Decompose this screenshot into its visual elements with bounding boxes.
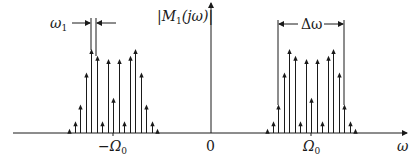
pos-omega0-label: Ω0 — [303, 139, 320, 156]
arrowhead-icon — [67, 129, 71, 134]
arrowhead-icon — [144, 104, 148, 109]
arrowhead-icon — [73, 121, 77, 126]
arrowhead-icon — [320, 121, 324, 126]
arrowhead-icon — [287, 49, 291, 54]
arrowhead-icon — [128, 56, 132, 61]
arrowhead-icon — [304, 59, 308, 64]
arrowhead-icon — [100, 121, 104, 126]
arrowhead-icon — [337, 73, 341, 78]
arrowhead-icon — [155, 129, 159, 134]
arrowhead-icon — [139, 73, 143, 78]
arrowhead-icon — [265, 129, 269, 134]
x-axis-label: ω — [397, 139, 408, 153]
y-axis-label: |M1(jω)| — [157, 9, 213, 26]
arrowhead-icon — [309, 98, 313, 103]
omega1-label: ω1 — [50, 16, 67, 33]
spectrum-diagram: |M1(jω)| ω1 Δω −Ω0 0 Ω0 ω — [0, 0, 417, 157]
arrowhead-icon — [348, 121, 352, 126]
bandwidth-label: Δω — [300, 17, 324, 31]
arrowhead-icon — [106, 59, 110, 64]
arrowhead-icon — [84, 73, 88, 78]
arrowhead-icon — [122, 121, 126, 126]
arrowhead-icon — [89, 49, 93, 54]
arrowhead-icon — [282, 73, 286, 78]
arrowhead-icon — [276, 104, 280, 109]
arrowhead-icon — [271, 121, 275, 126]
arrowhead-icon — [78, 104, 82, 109]
arrowhead-icon — [117, 59, 121, 64]
origin-label: 0 — [206, 139, 215, 153]
bandwidth-marker — [278, 20, 344, 105]
arrowhead-icon — [298, 121, 302, 126]
arrowhead-icon — [315, 59, 319, 64]
arrowhead-icon — [293, 56, 297, 61]
arrowhead-icon — [331, 49, 335, 54]
arrowhead-icon — [150, 121, 154, 126]
arrowhead-icon — [133, 49, 137, 54]
neg-omega0-label: −Ω0 — [98, 139, 127, 156]
arrowhead-icon — [353, 129, 357, 134]
omega1-marker — [72, 18, 116, 56]
spectral-lines-negative — [67, 49, 159, 134]
arrowhead-icon — [326, 56, 330, 61]
arrowhead-icon — [95, 56, 99, 61]
arrowhead-icon — [342, 104, 346, 109]
arrowhead-icon — [111, 98, 115, 103]
